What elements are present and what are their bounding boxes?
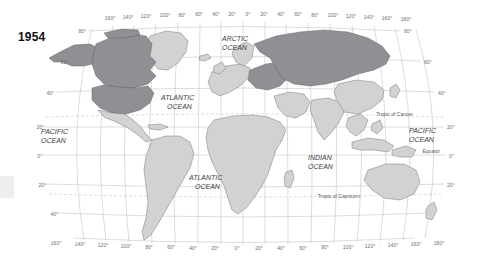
world-map: 1954	[0, 0, 486, 256]
svg-text:0°: 0°	[246, 11, 251, 17]
svg-text:OCEAN: OCEAN	[308, 163, 334, 170]
svg-text:140°: 140°	[123, 14, 133, 20]
svg-text:80°: 80°	[311, 12, 319, 18]
landmass-south-asia	[310, 98, 344, 140]
svg-text:60°: 60°	[424, 59, 432, 65]
longitude-ticks-bottom: 160° 140° 120° 100° 80° 60° 40° 20° 0° 2…	[51, 240, 444, 251]
svg-text:60°: 60°	[195, 11, 203, 17]
svg-text:140°: 140°	[364, 14, 374, 20]
svg-text:100°: 100°	[160, 12, 170, 18]
svg-text:40°: 40°	[277, 245, 285, 251]
svg-text:40°: 40°	[212, 11, 220, 17]
landmass-madagascar	[284, 170, 294, 188]
landmass-africa	[206, 115, 286, 214]
latitude-ticks-right: 80° 60° 40° 20° 0° 20°	[404, 28, 455, 188]
svg-text:160°: 160°	[382, 15, 392, 21]
svg-text:100°: 100°	[328, 12, 338, 18]
landmass-southeast-asia	[346, 114, 368, 136]
svg-text:140°: 140°	[388, 242, 398, 248]
svg-text:20°: 20°	[447, 124, 455, 130]
svg-text:80°: 80°	[321, 244, 329, 250]
svg-text:ARCTIC: ARCTIC	[221, 35, 249, 42]
svg-text:60°: 60°	[294, 11, 302, 17]
svg-text:OCEAN: OCEAN	[222, 44, 248, 51]
svg-text:160°: 160°	[51, 240, 61, 246]
svg-text:20°: 20°	[260, 11, 268, 17]
svg-text:100°: 100°	[343, 244, 353, 250]
svg-text:INDIAN: INDIAN	[308, 154, 333, 161]
svg-text:20°: 20°	[38, 182, 46, 188]
landmass-caribbean	[148, 124, 168, 130]
svg-text:40°: 40°	[46, 90, 54, 96]
svg-text:0°: 0°	[235, 245, 240, 251]
svg-text:0°: 0°	[449, 153, 454, 159]
svg-text:20°: 20°	[228, 11, 236, 17]
svg-text:120°: 120°	[141, 13, 151, 19]
tropic-of-cancer-label: Tropic of Cancer	[376, 111, 413, 117]
svg-text:160°: 160°	[411, 241, 421, 247]
landmass-iceland	[199, 54, 211, 61]
svg-text:180°: 180°	[401, 16, 411, 22]
svg-text:40°: 40°	[50, 211, 58, 217]
landmass-new-zealand	[426, 202, 437, 220]
svg-text:OCEAN: OCEAN	[41, 137, 67, 144]
svg-text:20°: 20°	[36, 124, 44, 130]
svg-text:20°: 20°	[255, 245, 263, 251]
svg-text:80°: 80°	[78, 28, 86, 34]
landmass-middle-east	[274, 92, 310, 118]
svg-text:80°: 80°	[178, 12, 186, 18]
svg-text:60°: 60°	[60, 59, 68, 65]
svg-text:20°: 20°	[211, 245, 219, 251]
svg-text:80°: 80°	[404, 28, 412, 34]
svg-text:20°: 20°	[447, 182, 455, 188]
svg-text:ATLANTIC: ATLANTIC	[188, 174, 223, 181]
landmass-australia	[364, 164, 420, 200]
svg-text:OCEAN: OCEAN	[195, 183, 221, 190]
landmass-indonesia	[352, 138, 394, 152]
svg-text:60°: 60°	[167, 244, 175, 250]
svg-text:120°: 120°	[346, 13, 356, 19]
svg-text:120°: 120°	[365, 243, 375, 249]
svg-text:0°: 0°	[37, 153, 42, 159]
svg-text:40°: 40°	[438, 90, 446, 96]
svg-text:160°: 160°	[105, 15, 115, 21]
svg-text:OCEAN: OCEAN	[167, 103, 193, 110]
landmass-south-america	[142, 136, 194, 240]
ocean-label-south-atlantic-ocean: ATLANTIC OCEAN	[188, 174, 223, 190]
svg-text:120°: 120°	[98, 242, 108, 248]
svg-text:40°: 40°	[277, 11, 285, 17]
ocean-label-east-pacific-ocean: PACIFIC OCEAN	[41, 128, 69, 144]
svg-text:180°: 180°	[434, 240, 444, 246]
svg-text:OCEAN: OCEAN	[409, 136, 435, 143]
landmass-new-guinea	[392, 146, 416, 157]
svg-text:100°: 100°	[121, 243, 131, 249]
svg-text:60°: 60°	[299, 245, 307, 251]
landmass-japan	[390, 84, 400, 98]
svg-text:PACIFIC: PACIFIC	[41, 128, 69, 135]
svg-text:80°: 80°	[145, 244, 153, 250]
svg-text:ATLANTIC: ATLANTIC	[160, 94, 195, 101]
tropic-of-capricorn-label: Tropic of Capricorn	[318, 193, 361, 199]
landmass-united-states	[92, 85, 154, 114]
svg-text:PACIFIC: PACIFIC	[409, 127, 437, 134]
landmass-canada	[92, 34, 156, 88]
map-canvas: Tropic of Cancer Equator Tropic of Capri…	[0, 0, 486, 256]
equator-label: Equator	[422, 148, 440, 154]
svg-text:140°: 140°	[75, 241, 85, 247]
longitude-ticks-top: 160° 140° 120° 100° 80° 60° 40° 20° 0° 2…	[105, 11, 411, 22]
landmass-philippines	[371, 120, 383, 134]
svg-text:40°: 40°	[189, 245, 197, 251]
ocean-label-north-atlantic-ocean: ATLANTIC OCEAN	[160, 94, 195, 110]
ocean-label-west-pacific-ocean: PACIFIC OCEAN	[409, 127, 437, 143]
